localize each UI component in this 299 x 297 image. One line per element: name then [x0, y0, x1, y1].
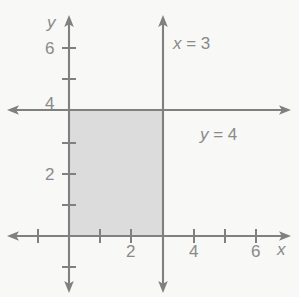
coordinate-plane-figure: y x 6 4 2 2 4 6 x = 3 y = 4: [0, 0, 299, 297]
shaded-region: [69, 110, 163, 236]
y-axis-label: y: [47, 14, 56, 31]
y-tick-label-2: 2: [45, 166, 54, 183]
line-label-x-equals-3: x = 3: [173, 35, 210, 52]
y-tick-label-6: 6: [45, 40, 54, 57]
line-label-x-variable: x: [173, 34, 182, 53]
y-tick-label-4: 4: [45, 95, 54, 112]
line-label-y-equals-4: y = 4: [200, 126, 237, 143]
line-label-x-value: = 3: [182, 34, 211, 53]
x-tick-label-4: 4: [189, 243, 198, 260]
x-tick-label-6: 6: [251, 243, 260, 260]
x-axis-label: x: [277, 241, 286, 258]
line-label-y-variable: y: [200, 125, 209, 144]
line-label-y-value: = 4: [209, 125, 238, 144]
x-tick-label-2: 2: [126, 243, 135, 260]
